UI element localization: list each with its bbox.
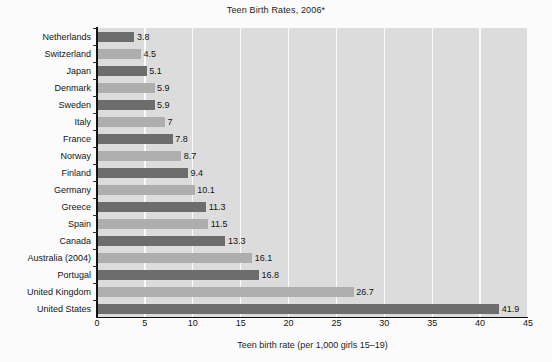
x-axis-title: Teen birth rate (per 1,000 girls 15–19) <box>97 340 528 350</box>
x-axis-tick-labels: 051015202530354045 <box>0 318 552 332</box>
bar-row: Finland9.4 <box>0 164 552 181</box>
bar-row: Germany10.1 <box>0 181 552 198</box>
category-label-australia-2004: Australia (2004) <box>0 253 91 263</box>
category-label-finland: Finland <box>0 168 91 178</box>
y-axis-tick <box>93 266 98 267</box>
bar-value-label: 16.8 <box>261 270 279 280</box>
bar-row: Portugal16.8 <box>0 266 552 283</box>
bar-value-label: 3.8 <box>137 32 150 42</box>
category-label-denmark: Denmark <box>0 83 91 93</box>
bar-row: Netherlands3.8 <box>0 28 552 45</box>
bar-canada <box>98 236 225 246</box>
y-axis-tick <box>93 28 98 29</box>
bar-france <box>98 134 173 144</box>
bar-value-label: 16.1 <box>255 253 273 263</box>
x-tick-label-15: 15 <box>236 318 246 329</box>
y-axis-tick <box>93 130 98 131</box>
y-axis-tick <box>93 113 98 114</box>
bar-united-kingdom <box>98 287 354 297</box>
bar-row: Australia (2004)16.1 <box>0 249 552 266</box>
category-label-germany: Germany <box>0 185 91 195</box>
bar-sweden <box>98 100 155 110</box>
bar-row: United States41.9 <box>0 300 552 317</box>
category-label-switzerland: Switzerland <box>0 49 91 59</box>
bar-value-label: 11.5 <box>211 219 228 229</box>
bar-norway <box>98 151 181 161</box>
y-axis-tick <box>93 198 98 199</box>
y-axis-tick <box>93 96 98 97</box>
bar-rows: Netherlands3.8Switzerland4.5Japan5.1Denm… <box>0 28 552 317</box>
bar-row: Switzerland4.5 <box>0 45 552 62</box>
bar-denmark <box>98 83 155 93</box>
x-tick-label-40: 40 <box>475 318 485 329</box>
x-tick-label-45: 45 <box>523 318 533 329</box>
bar-australia-2004 <box>98 253 252 263</box>
y-axis-tick <box>93 45 98 46</box>
x-tick-label-10: 10 <box>188 318 198 329</box>
bar-netherlands <box>98 32 134 42</box>
bar-value-label: 7.8 <box>175 134 188 144</box>
bar-germany <box>98 185 195 195</box>
category-label-france: France <box>0 134 91 144</box>
x-tick-label-30: 30 <box>379 318 389 329</box>
bar-row: France7.8 <box>0 130 552 147</box>
bar-row: Norway8.7 <box>0 147 552 164</box>
bar-value-label: 11.3 <box>209 202 226 212</box>
bar-japan <box>98 66 147 76</box>
x-tick-label-20: 20 <box>284 318 294 329</box>
bar-value-label: 41.9 <box>502 304 520 314</box>
bar-value-label: 7 <box>168 117 173 127</box>
y-axis-tick <box>93 62 98 63</box>
bar-row: Japan5.1 <box>0 62 552 79</box>
bar-greece <box>98 202 206 212</box>
teen-birth-rates-chart: Teen Birth Rates, 2006* Netherlands3.8Sw… <box>0 0 552 362</box>
bar-row: Sweden5.9 <box>0 96 552 113</box>
bar-spain <box>98 219 208 229</box>
y-axis-tick <box>93 181 98 182</box>
bar-switzerland <box>98 49 141 59</box>
category-label-italy: Italy <box>0 117 91 127</box>
bar-row: Spain11.5 <box>0 215 552 232</box>
bar-value-label: 5.9 <box>157 83 170 93</box>
bar-value-label: 10.1 <box>197 185 215 195</box>
bar-value-label: 4.5 <box>144 49 157 59</box>
category-label-sweden: Sweden <box>0 100 91 110</box>
bar-row: Canada13.3 <box>0 232 552 249</box>
category-label-japan: Japan <box>0 66 91 76</box>
category-label-greece: Greece <box>0 202 91 212</box>
bar-value-label: 26.7 <box>356 287 374 297</box>
bar-row: Italy7 <box>0 113 552 130</box>
y-axis-tick <box>93 283 98 284</box>
x-tick-label-35: 35 <box>427 318 437 329</box>
x-tick-label-5: 5 <box>142 318 147 329</box>
bar-row: Greece11.3 <box>0 198 552 215</box>
bar-value-label: 5.1 <box>149 66 162 76</box>
y-axis-tick <box>93 79 98 80</box>
bar-value-label: 8.7 <box>184 151 197 161</box>
bar-united-states <box>98 304 499 314</box>
chart-title: Teen Birth Rates, 2006* <box>0 5 552 15</box>
x-tick-label-0: 0 <box>94 318 99 329</box>
category-label-united-kingdom: United Kingdom <box>0 287 91 297</box>
x-tick-label-25: 25 <box>331 318 341 329</box>
bar-value-label: 13.3 <box>228 236 246 246</box>
bar-row: United Kingdom26.7 <box>0 283 552 300</box>
bar-value-label: 5.9 <box>157 100 170 110</box>
bar-row: Denmark5.9 <box>0 79 552 96</box>
category-label-spain: Spain <box>0 219 91 229</box>
y-axis-tick <box>93 249 98 250</box>
category-label-portugal: Portugal <box>0 270 91 280</box>
category-label-canada: Canada <box>0 236 91 246</box>
bar-finland <box>98 168 188 178</box>
category-label-netherlands: Netherlands <box>0 32 91 42</box>
category-label-united-states: United States <box>0 304 91 314</box>
bar-value-label: 9.4 <box>191 168 204 178</box>
bar-portugal <box>98 270 259 280</box>
y-axis-tick <box>93 215 98 216</box>
y-axis-tick <box>93 232 98 233</box>
bar-italy <box>98 117 165 127</box>
category-label-norway: Norway <box>0 151 91 161</box>
y-axis-tick <box>93 147 98 148</box>
y-axis-tick <box>93 300 98 301</box>
y-axis-tick <box>93 164 98 165</box>
